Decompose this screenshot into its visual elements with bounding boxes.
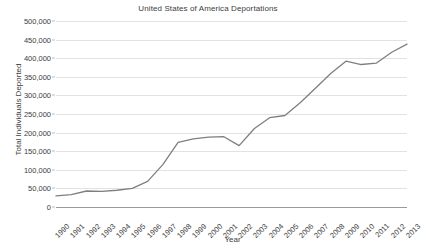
deportations-line [56,44,407,196]
y-tick-mark [52,76,55,77]
x-axis-label: Year [55,235,410,244]
y-tick-mark [52,58,55,59]
y-tick-mark [52,21,55,22]
y-tick-label: 100,000 [0,165,51,174]
gridline [56,207,407,208]
y-tick-label: 0 [0,203,51,212]
y-tick-label: 250,000 [0,110,51,119]
y-tick-label: 200,000 [0,128,51,137]
y-tick-mark [52,207,55,208]
y-tick-mark [52,151,55,152]
y-tick-mark [52,95,55,96]
y-tick-label: 500,000 [0,17,51,26]
y-tick-label: 50,000 [0,184,51,193]
plot-area: 050,000100,000150,000200,000250,000300,0… [56,21,407,207]
line-series [56,21,407,207]
y-tick-label: 400,000 [0,54,51,63]
y-tick-label: 350,000 [0,72,51,81]
y-tick-mark [52,114,55,115]
chart-title: United States of America Deportations [0,4,416,13]
y-tick-mark [52,39,55,40]
y-tick-mark [52,132,55,133]
y-tick-label: 300,000 [0,91,51,100]
y-tick-mark [52,169,55,170]
y-tick-label: 450,000 [0,35,51,44]
y-tick-label: 150,000 [0,147,51,156]
y-tick-mark [52,188,55,189]
